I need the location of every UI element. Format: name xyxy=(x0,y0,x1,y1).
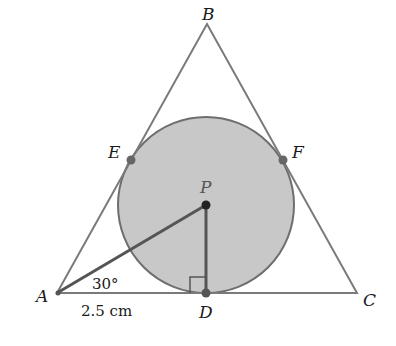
label-a: A xyxy=(34,286,48,306)
label-d: D xyxy=(198,302,213,322)
point-e xyxy=(127,156,136,165)
point-p xyxy=(202,201,211,210)
length-label: 2.5 cm xyxy=(81,302,132,320)
label-c: C xyxy=(363,290,376,310)
angle-label: 30° xyxy=(92,275,119,293)
triangle-incircle-diagram: B A C E F P D 30° 2.5 cm xyxy=(0,0,396,346)
point-a xyxy=(56,291,61,296)
label-b: B xyxy=(201,4,215,24)
label-p: P xyxy=(199,177,212,197)
label-e: E xyxy=(107,142,121,162)
point-d xyxy=(202,289,211,298)
point-f xyxy=(279,156,288,165)
label-f: F xyxy=(291,142,305,162)
